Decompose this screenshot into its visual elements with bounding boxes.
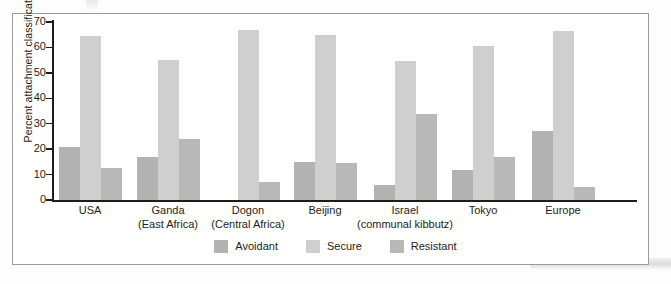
x-axis-line: [52, 200, 637, 202]
bar-secure: [395, 61, 416, 200]
bar-group: [294, 22, 357, 200]
x-axis-label-sub: (Central Africa): [163, 218, 333, 232]
legend-label-avoidant: Avoidant: [235, 241, 278, 252]
legend-swatch-resistant: [390, 240, 404, 253]
bar-resistant: [336, 163, 357, 200]
bar-resistant: [574, 187, 595, 200]
legend-swatch-avoidant: [214, 240, 228, 253]
bar-secure: [473, 46, 494, 200]
chart-legend: AvoidantSecureResistant: [0, 240, 671, 253]
legend-label-resistant: Resistant: [411, 241, 457, 252]
plot-area: [52, 22, 637, 200]
y-axis-tick-label: 20: [20, 143, 46, 154]
legend-item-resistant: Resistant: [390, 240, 457, 253]
bar-group: [374, 22, 437, 200]
x-axis-label-sub: (communal kibbutz): [320, 218, 490, 232]
bar-group: [532, 22, 595, 200]
bar-group: [137, 22, 200, 200]
legend-swatch-secure: [306, 240, 320, 253]
x-axis-label-main: Europe: [545, 204, 580, 216]
bar-avoidant: [532, 131, 553, 200]
y-axis-title: Percent attachment classification: [22, 0, 34, 144]
bar-secure: [80, 36, 101, 200]
bar-group: [217, 22, 280, 200]
y-axis-tick-label: 10: [20, 169, 46, 180]
bar-avoidant: [452, 170, 473, 201]
x-axis-label: Europe: [478, 204, 648, 218]
bar-avoidant: [59, 147, 80, 200]
bar-secure: [238, 30, 259, 200]
bar-avoidant: [294, 162, 315, 200]
bar-resistant: [179, 139, 200, 200]
scan-artifact-top: [86, 0, 98, 12]
legend-item-secure: Secure: [306, 240, 362, 253]
bar-resistant: [494, 157, 515, 200]
bar-group: [452, 22, 515, 200]
bar-avoidant: [374, 185, 395, 200]
bar-secure: [158, 60, 179, 200]
bar-secure: [315, 35, 336, 200]
legend-item-avoidant: Avoidant: [214, 240, 278, 253]
bar-resistant: [416, 114, 437, 200]
bar-group: [59, 22, 122, 200]
legend-label-secure: Secure: [327, 241, 362, 252]
bar-secure: [553, 31, 574, 200]
bar-avoidant: [137, 157, 158, 200]
bar-resistant: [259, 182, 280, 200]
bar-resistant: [101, 168, 122, 200]
